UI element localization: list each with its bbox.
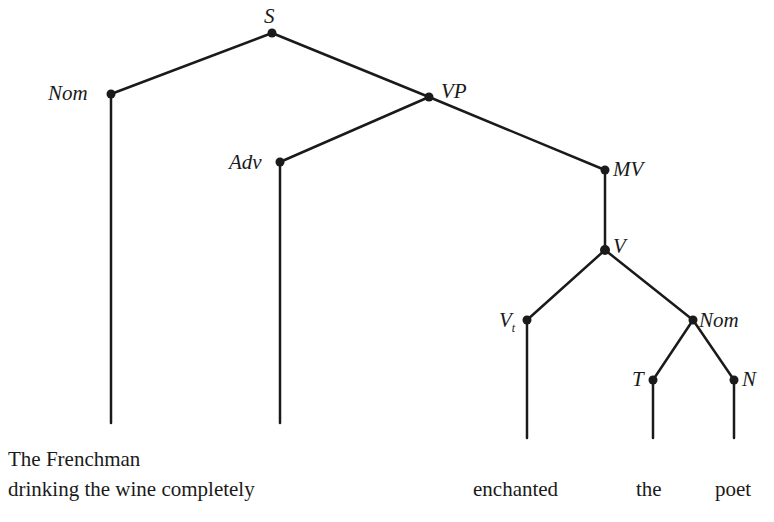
word-the-frenchman: The Frenchman (8, 449, 140, 470)
word-enchanted: enchanted (473, 479, 558, 500)
node-dot-t (649, 376, 658, 385)
node-dot-v (600, 245, 610, 255)
node-label-mv: MV (613, 159, 643, 180)
node-dot-n (730, 376, 739, 385)
node-dot-vp (425, 93, 434, 102)
node-dot-nom (107, 90, 116, 99)
word-poet: poet (715, 479, 751, 500)
node-label-n: N (742, 369, 756, 390)
node-label-nom2: Nom (699, 310, 739, 331)
node-dot-nom2 (689, 316, 698, 325)
node-dot-mv (601, 166, 610, 175)
node-label-vt: Vt (499, 310, 515, 334)
node-dot-vt (523, 316, 532, 325)
node-label-v: V (613, 236, 626, 257)
node-label-s: S (264, 6, 275, 27)
node-label-vp: VP (441, 81, 467, 102)
node-label-t: T (632, 369, 644, 390)
node-label-adv: Adv (229, 152, 262, 173)
word-drinking-the-wine-completely: drinking the wine completely (8, 479, 255, 500)
node-dot-s (268, 29, 277, 38)
node-label-nom: Nom (48, 83, 88, 104)
tree-lines (0, 0, 774, 522)
word-the: the (636, 479, 662, 500)
node-dot-adv (276, 158, 285, 167)
